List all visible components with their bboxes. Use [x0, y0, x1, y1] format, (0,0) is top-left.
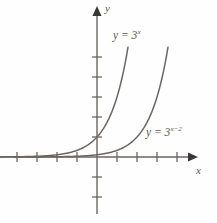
y-axis-arrowhead	[93, 6, 102, 16]
curve2-label-exponent: x−2	[170, 125, 182, 133]
curve-label-y-equals-3-to-the-x-minus-2: y = 3x−2	[146, 127, 182, 139]
coordinate-plot	[0, 0, 217, 223]
x-axis-arrowhead	[188, 153, 198, 162]
y-axis-label: y	[105, 3, 110, 14]
curve-y-equals-3-to-the-x	[0, 47, 128, 157]
curve1-label-exponent: x	[137, 28, 140, 36]
x-axis-label: x	[196, 165, 201, 176]
exponential-graph-figure: y = 3x y = 3x−2 y x	[0, 0, 217, 223]
y-axis	[93, 6, 102, 214]
curve-label-y-equals-3-to-the-x: y = 3x	[113, 30, 141, 42]
curve-y-equals-3-to-the-x-minus-2	[0, 47, 168, 157]
curve1-label-base: y = 3	[113, 29, 137, 41]
curve2-label-base: y = 3	[146, 126, 170, 138]
